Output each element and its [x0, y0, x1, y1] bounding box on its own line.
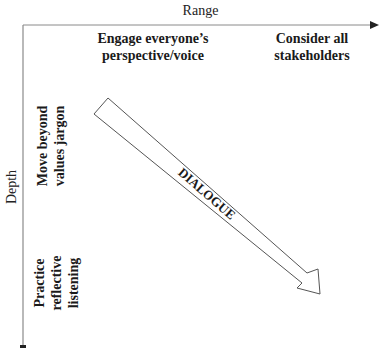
depth-axis-end-icon: [20, 345, 26, 348]
range-item-stakeholders-line2: stakeholders: [262, 47, 362, 64]
depth-item-jargon-line1: Move beyond: [34, 91, 51, 201]
range-item-stakeholders: Consider all stakeholders: [262, 30, 362, 64]
depth-item-listening-line3: listening: [65, 240, 82, 326]
range-item-stakeholders-line1: Consider all: [262, 30, 362, 47]
depth-axis-title: Depth: [4, 157, 22, 217]
range-item-engage-line2: perspective/voice: [88, 47, 218, 64]
range-axis-title: Range: [0, 3, 379, 19]
depth-item-jargon: Move beyond values jargon: [34, 91, 70, 201]
depth-item-listening-line2: reflective: [48, 240, 65, 326]
dialogue-label: DIALOGUE: [175, 165, 238, 223]
range-item-engage: Engage everyone’s perspective/voice: [88, 30, 218, 64]
depth-item-listening: Practice reflective listening: [31, 240, 83, 326]
range-axis-arrowhead-icon: [370, 21, 379, 29]
depth-item-jargon-line2: values jargon: [51, 91, 68, 201]
depth-item-listening-line1: Practice: [31, 240, 48, 326]
range-item-engage-line1: Engage everyone’s: [88, 30, 218, 47]
